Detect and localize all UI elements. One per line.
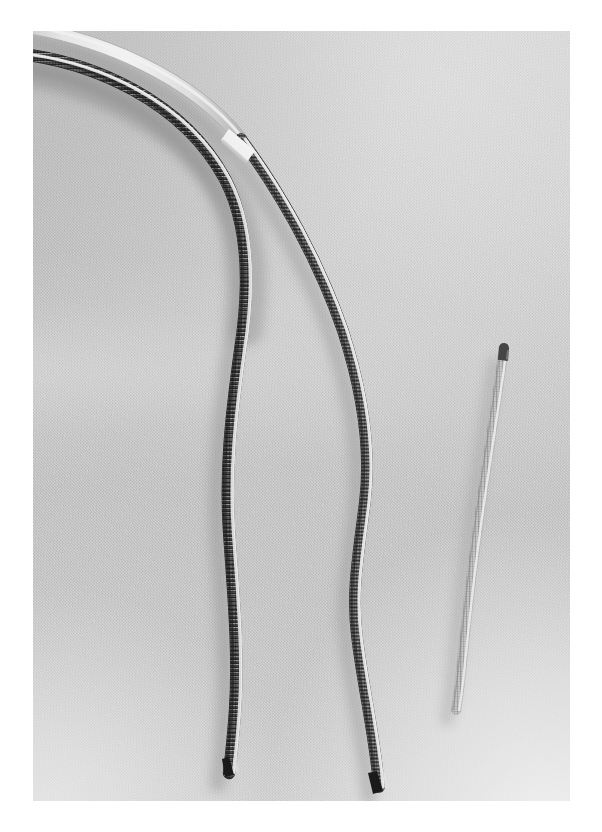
devices-layer (33, 31, 570, 801)
photograph (33, 31, 570, 801)
film-grain (33, 31, 570, 801)
photo-frame (0, 0, 602, 832)
